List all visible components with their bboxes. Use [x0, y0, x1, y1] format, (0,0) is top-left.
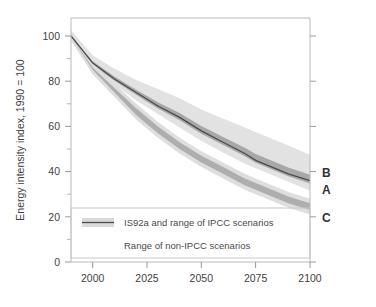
y-tick-label-80: 80: [48, 75, 60, 87]
y-tick-label-60: 60: [48, 120, 60, 132]
end-label-c: C: [322, 211, 331, 225]
chart-figure: 100 80 60 40 20 0 2000 2025 2050 2075 21…: [0, 0, 376, 307]
legend-label-non-ipcc: Range of non-IPCC scenarios: [124, 240, 250, 251]
x-axis-ticks: [93, 262, 310, 268]
legend-label-ipcc: IS92a and range of IPCC scenarios: [124, 217, 274, 228]
end-label-b: B: [322, 166, 331, 180]
y-tick-label-40: 40: [48, 165, 60, 177]
y-axis-ticks: [65, 36, 71, 262]
x-tick-label-2050: 2050: [190, 272, 214, 284]
y-tick-label-20: 20: [48, 211, 60, 223]
y-axis-title: Energy intensity index, 1990 = 100: [14, 59, 26, 221]
end-label-a: A: [322, 183, 331, 197]
x-tick-label-2000: 2000: [81, 272, 105, 284]
x-tick-label-2100: 2100: [298, 272, 322, 284]
x-tick-label-2075: 2075: [244, 272, 268, 284]
energy-intensity-line-chart: 100 80 60 40 20 0 2000 2025 2050 2075 21…: [0, 0, 376, 307]
y-tick-label-100: 100: [42, 30, 60, 42]
x-tick-label-2025: 2025: [135, 272, 159, 284]
y-tick-label-0: 0: [54, 256, 60, 268]
right-axis-ticks: [310, 36, 316, 262]
